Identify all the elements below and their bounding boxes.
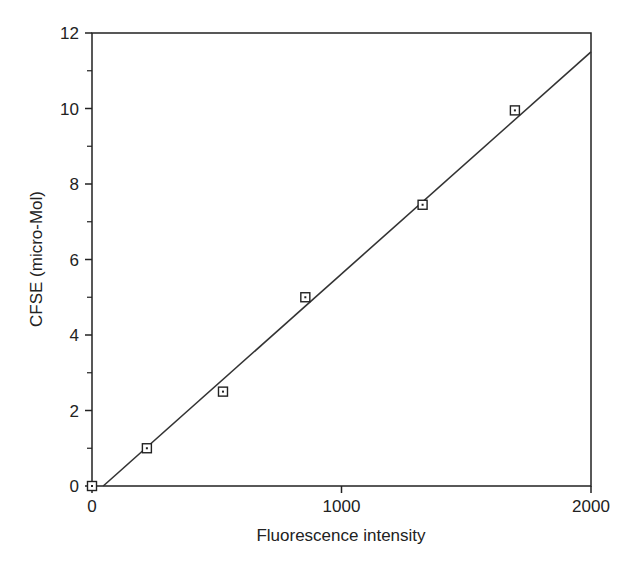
y-tick-label: 0 xyxy=(70,477,79,496)
y-tick-label: 10 xyxy=(60,100,79,119)
regression-line xyxy=(103,52,591,486)
x-axis: 010002000 xyxy=(87,486,610,516)
y-tick-label: 6 xyxy=(70,251,79,270)
y-tick-label: 8 xyxy=(70,175,79,194)
data-point xyxy=(301,293,310,302)
x-tick-label: 0 xyxy=(87,497,96,516)
data-point xyxy=(218,387,227,396)
y-tick-label: 12 xyxy=(60,24,79,43)
data-point xyxy=(142,444,151,453)
y-tick-label: 2 xyxy=(70,402,79,421)
y-tick-label: 4 xyxy=(70,326,79,345)
y-axis-title: CFSE (micro-Mol) xyxy=(27,191,46,327)
x-axis-title: Fluorescence intensity xyxy=(256,526,426,545)
data-point xyxy=(418,200,427,209)
y-axis: 024681012 xyxy=(60,24,92,496)
data-point xyxy=(88,482,97,491)
x-tick-label: 1000 xyxy=(323,497,361,516)
data-markers xyxy=(88,106,520,491)
plot-border xyxy=(92,33,591,486)
chart: 024681012 010002000 Fluorescence intensi… xyxy=(0,0,643,573)
data-point xyxy=(510,106,519,115)
plot-frame xyxy=(92,33,591,486)
x-tick-label: 2000 xyxy=(572,497,610,516)
fit-line xyxy=(103,52,591,486)
